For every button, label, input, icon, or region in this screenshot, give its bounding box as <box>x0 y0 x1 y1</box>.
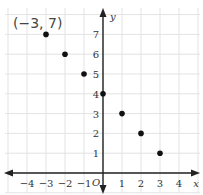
data-point <box>100 91 106 97</box>
y-tick-label: 4 <box>93 89 99 100</box>
x-tick-label: −3 <box>39 178 54 189</box>
x-tick-label: −4 <box>20 178 35 189</box>
tick-labels: −4−3−2−112341234567 <box>20 29 183 189</box>
y-tick-label: 5 <box>93 69 99 80</box>
x-tick-label: −2 <box>58 178 73 189</box>
annotations: (−3, 7) <box>13 15 62 31</box>
axes: xyO <box>4 8 200 194</box>
x-tick-label: −1 <box>77 178 92 189</box>
x-tick-label: 2 <box>138 178 144 189</box>
y-axis-label: y <box>109 11 116 22</box>
data-point <box>62 51 68 57</box>
data-point <box>81 71 87 77</box>
data-point <box>119 111 125 117</box>
y-tick-label: 7 <box>93 29 99 40</box>
x-axis-label: x <box>193 178 199 189</box>
x-axis-arrow-right-icon <box>191 170 200 177</box>
y-tick-label: 2 <box>93 128 99 139</box>
point-annotation: (−3, 7) <box>13 15 62 31</box>
x-tick-label: 1 <box>119 178 125 189</box>
x-tick-label: 4 <box>176 178 182 189</box>
data-point <box>138 131 144 137</box>
y-axis-arrow-up-icon <box>100 8 107 17</box>
y-tick-label: 6 <box>93 49 99 60</box>
scatter-plot: xyO −4−3−2−112341234567 (−3, 7) <box>0 0 203 195</box>
origin-label: O <box>92 177 100 188</box>
x-tick-label: 3 <box>157 178 163 189</box>
data-point <box>157 150 163 156</box>
y-tick-label: 3 <box>93 109 99 120</box>
y-tick-label: 1 <box>93 148 99 159</box>
data-point <box>43 32 49 38</box>
